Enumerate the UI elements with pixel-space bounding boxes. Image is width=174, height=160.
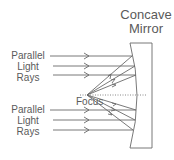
ray-diagram-graphic	[0, 0, 174, 160]
concave-mirror-icon	[130, 43, 152, 148]
